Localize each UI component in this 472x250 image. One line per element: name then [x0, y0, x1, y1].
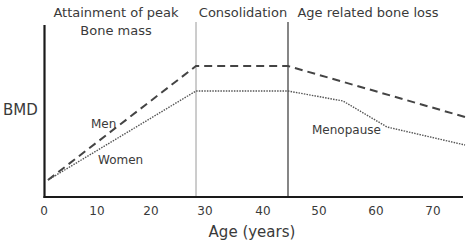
x-tick-label: 20 [143, 204, 158, 218]
x-tick-label: 50 [311, 204, 326, 218]
x-tick-label: 30 [197, 204, 212, 218]
x-tick-label: 70 [425, 204, 440, 218]
annotation-menopause: Menopause [312, 123, 381, 137]
phase-label-consolidation: Consolidation [199, 5, 287, 20]
bmd-chart: Attainment of peak Bone mass Consolidati… [0, 0, 472, 250]
y-axis-label: BMD [3, 101, 38, 119]
annotation-women: Women [98, 153, 143, 167]
x-tick-label: 40 [255, 204, 270, 218]
phase-label-attainment: Attainment of peak [53, 5, 179, 20]
x-tick-label: 60 [368, 204, 383, 218]
x-tick-label: 0 [40, 204, 48, 218]
phase-label-attainment-line2: Bone mass [80, 23, 152, 38]
phase-label-bone-loss: Age related bone loss [297, 5, 438, 20]
x-axis-label: Age (years) [209, 223, 296, 241]
annotation-men: Men [91, 117, 116, 131]
x-tick-label: 10 [89, 204, 104, 218]
